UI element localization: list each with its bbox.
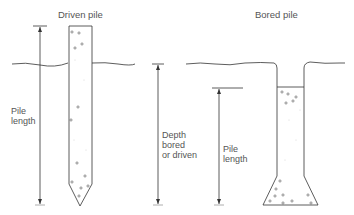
bored-pile <box>263 68 318 205</box>
ground-line-right <box>304 62 345 68</box>
label-line: length <box>11 116 36 126</box>
label-line: Pile <box>11 106 36 116</box>
label-line: Pile <box>223 144 248 154</box>
pile-diagram <box>0 0 354 215</box>
driven-pile <box>69 26 92 206</box>
depth-label: Depth bored or driven <box>162 130 197 160</box>
bored-pile-length-label: Pile length <box>223 144 248 164</box>
label-line: Depth <box>162 130 197 140</box>
label-line: bored <box>162 140 197 150</box>
label-line: or driven <box>162 150 197 160</box>
driven-pile-title: Driven pile <box>58 10 103 20</box>
bored-pile-title: Bored pile <box>255 10 298 20</box>
ground-line-middle <box>92 63 135 65</box>
driven-pile-length-label: Pile length <box>11 106 36 126</box>
label-line: length <box>223 154 248 164</box>
ground-line-middle2 <box>186 63 277 69</box>
